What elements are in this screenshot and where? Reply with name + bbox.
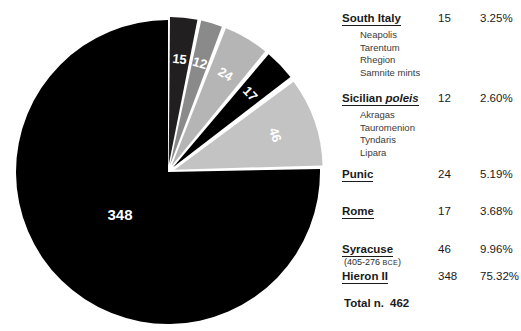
legend-total-label: Total n. bbox=[344, 297, 384, 309]
legend-row-hieron-ii[interactable]: Hieron II34875.32% bbox=[338, 270, 521, 284]
pie-slice-label-south-italy: 15 bbox=[172, 51, 188, 67]
legend-item-name: Hieron II bbox=[342, 270, 388, 284]
pie-slice-label-hieron-ii: 348 bbox=[107, 206, 132, 223]
legend-row-rome[interactable]: Rome173.68% bbox=[338, 205, 521, 219]
pie-chart-figure: 1512241746348 South Italy153.25%Neapolis… bbox=[0, 0, 521, 331]
pie-chart-graphic: 1512241746348 bbox=[0, 0, 335, 331]
legend-subitem: Akragas bbox=[360, 109, 395, 120]
legend: South Italy153.25%NeapolisTarentumRhegio… bbox=[338, 0, 521, 331]
legend-total-value: 462 bbox=[390, 297, 409, 309]
legend-item-count: 46 bbox=[438, 243, 451, 256]
pie-slices bbox=[16, 17, 323, 324]
legend-item-percent: 3.68% bbox=[480, 205, 513, 218]
legend-row-syracuse[interactable]: Syracuse469.96% bbox=[338, 243, 521, 257]
legend-item-percent: 75.32% bbox=[480, 270, 519, 283]
legend-subitem: Rhegion bbox=[360, 54, 395, 65]
legend-item-name: South Italy bbox=[342, 12, 401, 26]
legend-item-name: Sicilian poleis bbox=[342, 92, 419, 106]
legend-item-percent: 3.25% bbox=[480, 12, 513, 25]
legend-subitem: Lipara bbox=[360, 147, 386, 158]
legend-item-count: 15 bbox=[438, 12, 451, 25]
legend-row-south-italy[interactable]: South Italy153.25% bbox=[338, 12, 521, 26]
legend-item-percent: 5.19% bbox=[480, 168, 513, 181]
legend-subitem: Neapolis bbox=[360, 29, 397, 40]
legend-subitem: Tauromenion bbox=[360, 122, 415, 133]
legend-item-count: 348 bbox=[438, 270, 457, 283]
legend-item-count: 17 bbox=[438, 205, 451, 218]
legend-item-percent: 2.60% bbox=[480, 92, 513, 105]
legend-row-sicilian-poleis[interactable]: Sicilian poleis122.60% bbox=[338, 92, 521, 106]
legend-subitem: Samnite mints bbox=[360, 67, 420, 78]
legend-item-name: Punic bbox=[342, 168, 373, 182]
legend-item-daterange: (405-276 BCE) bbox=[344, 257, 401, 268]
legend-item-name: Rome bbox=[342, 205, 374, 219]
legend-row-punic[interactable]: Punic245.19% bbox=[338, 168, 521, 182]
pie-svg: 1512241746348 bbox=[0, 0, 335, 331]
legend-item-count: 12 bbox=[438, 92, 451, 105]
legend-total: Total n.462 bbox=[344, 297, 409, 309]
legend-subitem: Tyndaris bbox=[360, 134, 396, 145]
legend-item-percent: 9.96% bbox=[480, 243, 513, 256]
legend-subitem: Tarentum bbox=[360, 42, 400, 53]
legend-item-name: Syracuse bbox=[342, 243, 393, 257]
legend-item-count: 24 bbox=[438, 168, 451, 181]
